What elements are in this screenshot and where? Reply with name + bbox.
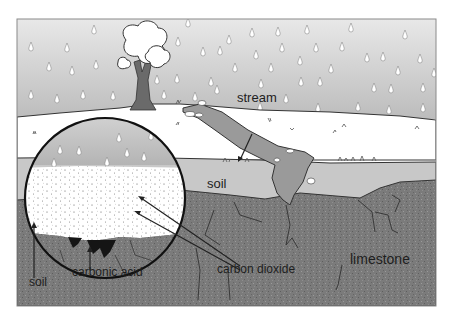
pebble (198, 101, 206, 106)
label-stream: stream (237, 91, 277, 104)
karst-formation-diagram: stream soil soil carbonic acid carbon di… (0, 0, 453, 319)
label-carbon-dioxide: carbon dioxide (217, 263, 295, 275)
pebble (185, 112, 195, 117)
label-soil: soil (207, 177, 227, 190)
label-carbonic-acid: carbonic acid (72, 266, 143, 278)
label-limestone: limestone (350, 252, 410, 266)
inset-soil-co2 (20, 166, 195, 240)
pebble (286, 149, 294, 153)
pebble (274, 158, 280, 162)
label-soil-inset: soil (29, 276, 47, 288)
pebble (195, 113, 203, 117)
pebble (307, 178, 315, 184)
sky (17, 19, 436, 119)
